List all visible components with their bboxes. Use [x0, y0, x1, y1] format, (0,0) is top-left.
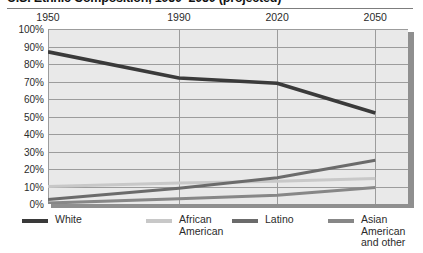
y-axis-tick-40pct: 40%	[24, 129, 44, 140]
plot-shadow-bottom	[51, 204, 414, 208]
x-axis-tick-2050: 2050	[364, 11, 387, 23]
y-axis-tick-10pct: 10%	[24, 181, 44, 192]
legend-entry-latino[interactable]: Latino	[232, 214, 294, 226]
x-axis-tick-1990: 1990	[167, 11, 190, 23]
legend-entry-african[interactable]: African American	[146, 214, 223, 237]
y-axis-tick-20pct: 20%	[24, 164, 44, 175]
plot-shadow-right	[408, 32, 414, 207]
legend-label: Asian American and other	[361, 214, 405, 249]
legend-label: African American	[179, 214, 223, 237]
legend-swatch-white	[22, 219, 48, 223]
y-axis-tick-80pct: 80%	[24, 59, 44, 70]
legend-entry-asian[interactable]: Asian American and other	[328, 214, 405, 249]
legend-swatch-asian-american	[328, 219, 354, 223]
legend-entry-white[interactable]: White	[22, 214, 82, 226]
legend-swatch-latino	[232, 219, 258, 223]
chart-figure: U.S. Ethnic Composition, 1950–2050 (proj…	[0, 0, 423, 253]
y-axis-tick-50pct: 50%	[24, 111, 44, 122]
legend-swatch-african-american	[146, 219, 172, 223]
y-axis-tick-70pct: 70%	[24, 76, 44, 87]
chart-legend: WhiteAfrican AmericanLatinoAsian America…	[22, 214, 420, 252]
chart-title: U.S. Ethnic Composition, 1950–2050 (proj…	[7, 0, 407, 5]
y-axis-tick-30pct: 30%	[24, 146, 44, 157]
series-line-white	[48, 52, 375, 113]
legend-label: Latino	[265, 214, 294, 226]
title-divider	[7, 8, 413, 9]
plot-area	[48, 29, 408, 204]
legend-label: White	[55, 214, 82, 226]
series-lines	[48, 29, 408, 204]
y-axis-tick-0pct: 0%	[30, 199, 44, 210]
x-axis-tick-1950: 1950	[36, 11, 59, 23]
y-axis-tick-90pct: 90%	[24, 41, 44, 52]
y-axis-tick-100pct: 100%	[18, 24, 44, 35]
y-axis-tick-60pct: 60%	[24, 94, 44, 105]
x-axis-tick-2020: 2020	[265, 11, 288, 23]
